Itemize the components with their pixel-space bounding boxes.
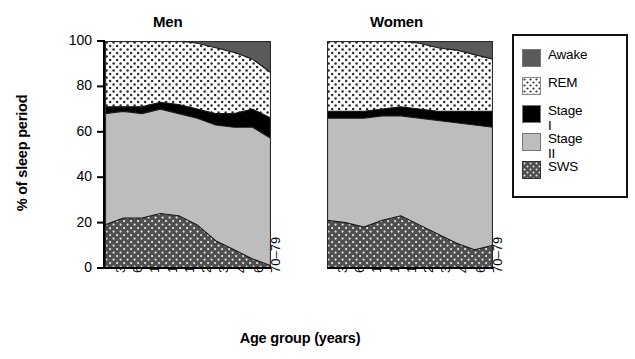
legend-label: SWS <box>548 159 578 174</box>
legend-label: Stage II <box>548 131 582 161</box>
legend-label: REM <box>548 75 577 90</box>
legend-swatch-icon <box>522 105 541 123</box>
legend-swatch-icon <box>522 161 541 179</box>
legend-label: Stage I <box>548 103 582 133</box>
legend-swatch-icon <box>522 77 541 95</box>
legend-box: AwakeREMStage IStage IISWS <box>512 34 628 198</box>
legend-label: Awake <box>548 47 587 62</box>
legend-swatch-icon <box>522 133 541 151</box>
figure-canvas: Men Women % of sleep period Age group (y… <box>0 0 635 359</box>
legend-swatch-icon <box>522 49 541 67</box>
